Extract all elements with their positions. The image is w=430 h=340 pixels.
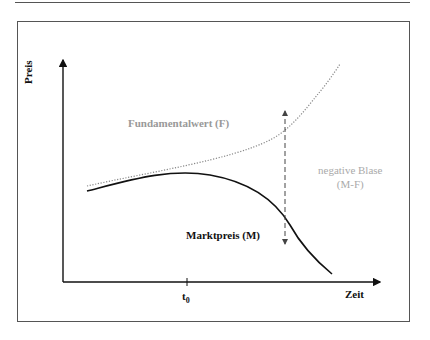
bubble-label-line1: negative Blase (318, 163, 382, 177)
t0-label: t0 (182, 290, 190, 305)
negative-bubble-label: negative Blase (M-F) (318, 163, 382, 191)
x-axis-label: Zeit (345, 288, 364, 300)
fundamental-label: Fundamentalwert (F) (128, 117, 229, 129)
market-price-label: Marktpreis (M) (186, 229, 260, 241)
market-price-curve (87, 173, 332, 274)
bubble-label-line2: (M-F) (318, 177, 382, 191)
y-axis-label: Preis (22, 60, 34, 84)
t0-sub: 0 (186, 296, 190, 305)
